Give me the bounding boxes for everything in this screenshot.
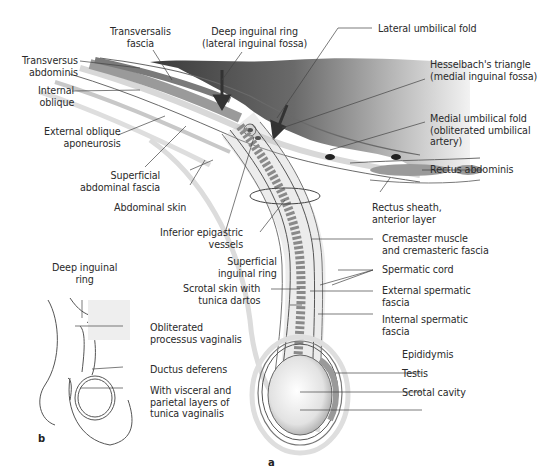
label-epididymis: Epididymis: [402, 349, 453, 361]
label-b-deep-inguinal-ring: Deep inguinal ring: [52, 262, 117, 285]
label-internal-oblique: Internal oblique: [38, 85, 74, 108]
label-abdominal-skin: Abdominal skin: [114, 202, 186, 214]
label-lateral-umbilical-fold: Lateral umbilical fold: [378, 23, 477, 35]
label-rectus-abdominis: Rectus abdominis: [430, 164, 513, 176]
label-spermatic-cord: Spermatic cord: [382, 264, 453, 276]
panel-label-b: b: [38, 433, 45, 444]
label-transversus-abdominis: Transversus abdominis: [22, 55, 78, 78]
label-internal-spermatic-fascia: Internal spermatic fascia: [382, 314, 468, 337]
label-testis: Testis: [402, 368, 428, 380]
label-b-tunica-vaginalis: With visceral and parietal layers of tun…: [150, 385, 231, 420]
label-superficial-inguinal-ring: Superficial inguinal ring: [218, 256, 277, 279]
panel-label-a: a: [268, 457, 275, 468]
label-deep-inguinal-ring: Deep inguinal ring (lateral inguinal fos…: [202, 26, 307, 49]
label-medial-umbilical-fold: Medial umbilical fold (obliterated umbil…: [430, 113, 530, 148]
label-external-spermatic-fascia: External spermatic fascia: [382, 285, 471, 308]
label-scrotal-cavity: Scrotal cavity: [402, 387, 466, 399]
label-b-ductus-deferens: Ductus deferens: [150, 364, 227, 376]
label-b-obliterated-processus: Obliterated processus vaginalis: [150, 322, 242, 345]
panel-b-outline: [40, 298, 132, 445]
label-inferior-epigastric-vessels: Inferior epigastric vessels: [160, 227, 243, 250]
label-superficial-abdominal-fascia: Superficial abdominal fascia: [80, 170, 160, 193]
label-hesselbach-triangle: Hesselbach's triangle (medial inguinal f…: [430, 59, 537, 82]
label-transversalis-fascia: Transversalis fascia: [110, 26, 171, 49]
label-scrotal-skin: Scrotal skin with tunica dartos: [183, 283, 260, 306]
label-external-oblique-aponeurosis: External oblique aponeurosis: [44, 126, 121, 149]
label-cremaster-muscle: Cremaster muscle and cremasteric fascia: [382, 233, 489, 256]
label-rectus-sheath: Rectus sheath, anterior layer: [372, 202, 442, 225]
